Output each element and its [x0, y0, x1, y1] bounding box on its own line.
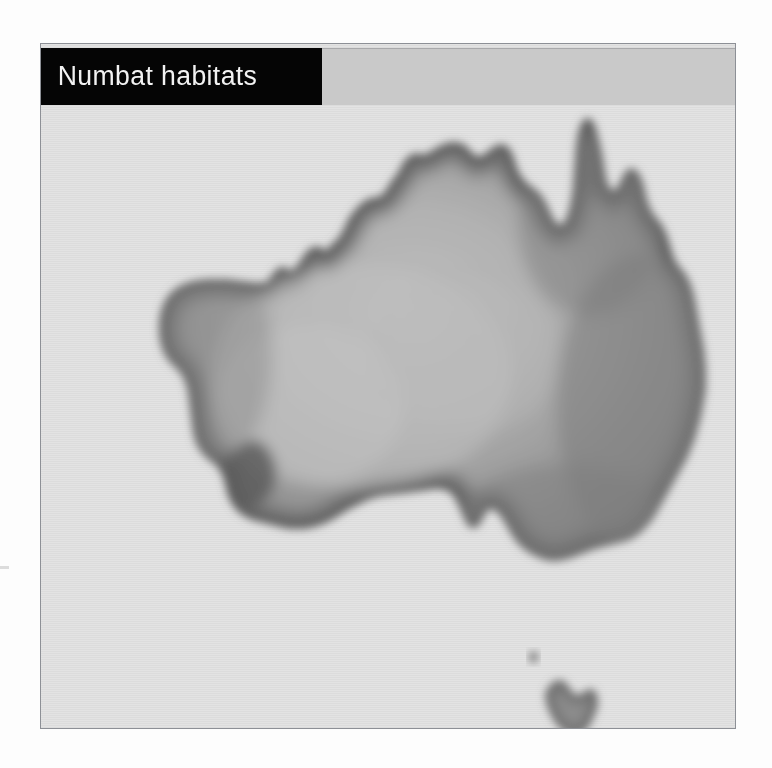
figure-title-box: Numbat habitats	[41, 48, 322, 105]
figure-header-band: Numbat habitats	[41, 48, 735, 105]
australia-map-svg	[41, 105, 735, 728]
page-title: Numbat habitats	[41, 63, 257, 90]
page-canvas: Numbat habitats	[0, 0, 772, 768]
figure-plate: Numbat habitats	[41, 44, 735, 728]
page-edge-tick-mark	[0, 566, 9, 569]
tasmania-group	[545, 680, 598, 728]
australia-map	[41, 105, 735, 728]
king-island-fill	[529, 651, 538, 663]
mainland-group	[151, 118, 725, 605]
